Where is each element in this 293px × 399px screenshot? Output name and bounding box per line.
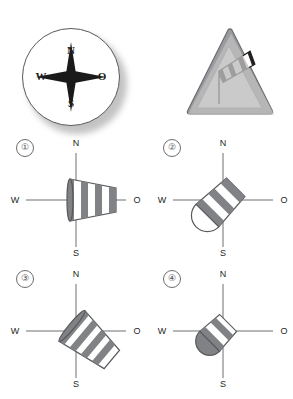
option-3-windsock — [57, 309, 125, 375]
option-2[interactable]: ② N S W O — [147, 135, 293, 265]
option-1[interactable]: ① N S W O — [0, 135, 146, 265]
option-2-label-east: O — [277, 196, 291, 205]
compass-label-south: S — [22, 98, 120, 109]
compass-label-east: O — [94, 71, 110, 82]
option-4-label-west: W — [155, 327, 169, 336]
option-4-label-north: N — [203, 270, 243, 279]
option-3-label-west: W — [8, 327, 22, 336]
compass-label-west: W — [33, 71, 49, 82]
option-1-label-west: W — [8, 196, 22, 205]
option-1-label-east: O — [130, 196, 144, 205]
compass-rose: N S W O — [22, 28, 128, 134]
figure-page: N S W O — [0, 0, 293, 399]
option-2-label-north: N — [203, 139, 243, 148]
option-1-label-south: S — [56, 249, 96, 258]
option-3-label-east: O — [130, 327, 144, 336]
option-4-label-east: O — [277, 327, 291, 336]
option-4[interactable]: ④ N S W O — [147, 266, 293, 396]
option-2-label-south: S — [203, 249, 243, 258]
option-4-label-south: S — [203, 380, 243, 389]
option-3[interactable]: ③ N S W O — [0, 266, 146, 396]
option-1-label-north: N — [56, 139, 96, 148]
option-2-windsock — [185, 176, 247, 238]
option-3-label-north: N — [56, 270, 96, 279]
crosswind-warning-sign — [182, 24, 278, 124]
compass-label-north: N — [22, 45, 120, 56]
option-2-label-west: W — [155, 196, 169, 205]
option-4-windsock — [190, 313, 238, 361]
option-1-windsock — [67, 179, 116, 221]
option-3-label-south: S — [56, 380, 96, 389]
top-row: N S W O — [0, 12, 293, 130]
